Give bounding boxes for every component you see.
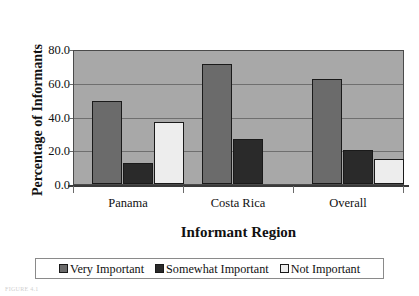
legend-item-somewhat-important: Somewhat Important bbox=[155, 263, 269, 275]
bar-panama-very-important bbox=[92, 101, 122, 184]
legend-swatch-icon bbox=[155, 264, 164, 273]
x-axis-title: Informant Region bbox=[73, 224, 404, 241]
x-category-label-panama: Panama bbox=[73, 196, 183, 211]
x-tick-mark bbox=[73, 186, 74, 193]
legend-swatch-icon bbox=[59, 264, 68, 273]
legend-item-very-important: Very Important bbox=[59, 263, 144, 275]
bar-panama-not-important bbox=[154, 122, 184, 184]
y-tick-label: 40.0 bbox=[28, 112, 70, 124]
x-category-label-costa-rica: Costa Rica bbox=[183, 196, 293, 211]
plot-area bbox=[73, 50, 404, 185]
x-axis-line bbox=[68, 185, 409, 187]
y-tick-label: 20.0 bbox=[28, 145, 70, 157]
legend-label: Somewhat Important bbox=[166, 263, 269, 275]
y-tick-label: 60.0 bbox=[28, 78, 70, 90]
x-tick-mark bbox=[293, 186, 294, 193]
legend-item-not-important: Not Important bbox=[280, 263, 360, 275]
bar-group-overall bbox=[312, 51, 406, 184]
legend-label: Not Important bbox=[291, 263, 360, 275]
x-category-label-overall: Overall bbox=[293, 196, 403, 211]
bar-costa-rica-somewhat-important bbox=[233, 139, 263, 184]
bar-group-panama bbox=[92, 51, 186, 184]
bar-panama-somewhat-important bbox=[123, 163, 153, 184]
legend-swatch-icon bbox=[280, 264, 289, 273]
bar-overall-somewhat-important bbox=[343, 150, 373, 184]
x-tick-mark bbox=[403, 186, 404, 193]
bar-chart-figure: Percentage of Informants 80.0 60.0 40.0 … bbox=[0, 0, 419, 296]
bar-group-costa-rica bbox=[202, 51, 296, 184]
legend-label: Very Important bbox=[70, 263, 144, 275]
bar-overall-not-important bbox=[374, 159, 404, 184]
figure-caption: FIGURE 4.1 bbox=[5, 286, 39, 292]
chart-legend: Very Important Somewhat Important Not Im… bbox=[35, 258, 384, 279]
x-tick-mark bbox=[183, 186, 184, 193]
bar-costa-rica-very-important bbox=[202, 64, 232, 184]
y-axis-tick-labels: 80.0 60.0 40.0 20.0 0.0 bbox=[26, 0, 70, 296]
y-tick-label: 80.0 bbox=[28, 44, 70, 56]
bar-overall-very-important bbox=[312, 79, 342, 184]
y-tick-label: 0.0 bbox=[28, 179, 70, 191]
